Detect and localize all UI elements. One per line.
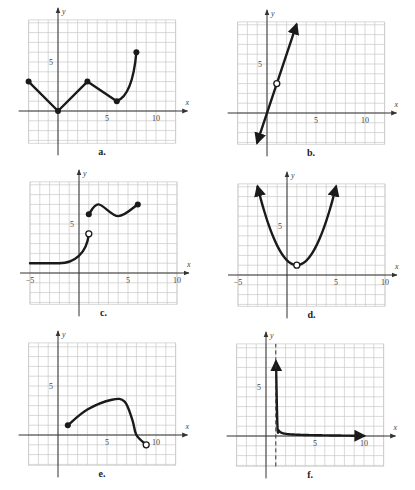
plotted-curve <box>276 362 364 436</box>
x-axis-label: x <box>393 423 398 432</box>
x-tick-label: 10 <box>152 438 160 447</box>
x-axis-label: x <box>394 262 399 271</box>
x-axis-label: x <box>186 260 191 269</box>
x-tick-label: 5 <box>105 438 109 447</box>
x-tick-label: 5 <box>334 278 338 287</box>
x-tick-label: 5 <box>314 116 318 125</box>
filled-point <box>114 98 120 104</box>
grid-lines <box>29 20 176 143</box>
open-point <box>294 262 300 268</box>
graphs-figure: xy5105a.xy5105b.xy−55105c.xy−55105d.xy51… <box>0 0 415 490</box>
graph-a: xy5105a. <box>19 7 190 157</box>
grid-lines <box>238 184 385 306</box>
grid-lines <box>238 22 385 145</box>
x-tick-label: 10 <box>361 116 369 125</box>
open-point <box>274 81 280 87</box>
x-tick-label: 10 <box>173 276 181 285</box>
y-tick-label: 5 <box>49 382 53 391</box>
graph-e: xy5105e. <box>19 330 190 480</box>
x-tick-label: 10 <box>381 278 389 287</box>
panel-label-a: a. <box>98 146 106 157</box>
filled-point <box>86 211 92 217</box>
panel-label-f: f. <box>307 469 313 480</box>
y-axis-label: y <box>270 9 275 18</box>
filled-point <box>133 49 139 55</box>
x-tick-label: 5 <box>313 439 317 448</box>
panel-label-d: d. <box>307 309 316 320</box>
graph-c: xy−55105c. <box>20 169 191 318</box>
y-axis-label: y <box>269 331 274 340</box>
panel-label-c: c. <box>100 307 107 318</box>
y-axis-label: y <box>290 171 295 180</box>
y-axis-label: y <box>82 169 87 178</box>
y-tick-label: 5 <box>70 220 74 229</box>
x-tick-label: −5 <box>234 278 243 287</box>
open-point <box>86 231 92 237</box>
x-axis-label: x <box>394 100 399 109</box>
x-tick-label: −5 <box>26 276 35 285</box>
filled-point <box>65 422 71 428</box>
grid-lines <box>29 343 176 466</box>
x-tick-label: 5 <box>105 114 109 123</box>
y-tick-label: 5 <box>258 60 262 69</box>
y-tick-label: 5 <box>257 383 261 392</box>
y-tick-label: 5 <box>278 222 282 231</box>
y-axis-label: y <box>61 7 66 16</box>
grid-lines <box>30 182 177 304</box>
filled-point <box>26 79 32 85</box>
x-axis-label: x <box>185 98 190 107</box>
x-tick-label: 5 <box>126 276 130 285</box>
filled-point <box>55 108 61 114</box>
y-tick-label: 5 <box>49 58 53 67</box>
panel-label-e: e. <box>99 468 106 479</box>
graph-d: xy−55105d. <box>228 171 399 320</box>
filled-point <box>84 79 90 85</box>
graph-b: xy5105b. <box>228 9 399 159</box>
panel-label-b: b. <box>307 147 316 158</box>
x-tick-label: 10 <box>152 114 160 123</box>
graph-f: xy5105f. <box>227 331 398 481</box>
open-point <box>143 442 149 448</box>
filled-point <box>135 201 141 207</box>
y-axis-label: y <box>61 330 66 339</box>
x-tick-label: 10 <box>360 439 368 448</box>
x-axis-label: x <box>185 422 190 431</box>
grid-lines <box>237 344 384 467</box>
